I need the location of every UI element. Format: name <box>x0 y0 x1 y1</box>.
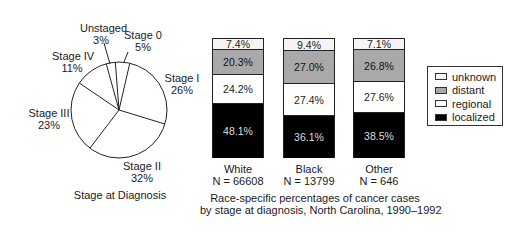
seg-localized: 36.1% <box>284 116 334 158</box>
seg-localized: 38.5% <box>354 113 404 158</box>
seg-distant: 26.8% <box>354 50 404 82</box>
legend-item-regional: regional <box>435 97 502 111</box>
seg-regional: 27.6% <box>354 82 404 113</box>
pie-label-stage4: Stage IV11% <box>52 50 92 74</box>
legend-swatch-regional <box>435 100 447 107</box>
seg-regional: 27.4% <box>284 84 334 116</box>
seg-distant: 27.0% <box>284 51 334 84</box>
legend-swatch-distant <box>435 87 447 94</box>
bar-white: 7.4% 20.3% 24.2% 48.1% <box>212 38 264 158</box>
legend: unknown distant regional localized <box>427 66 503 126</box>
seg-regional: 24.2% <box>213 75 263 104</box>
pie-label-stage1: Stage I26% <box>162 72 202 96</box>
pie-title: Stage at Diagnosis <box>60 189 180 201</box>
pie-label-unstaged: Unstaged3% <box>80 22 122 46</box>
legend-item-localized: localized <box>435 111 502 125</box>
pie-label-stage2: Stage II32% <box>122 160 162 184</box>
bar-other: 7.1% 26.8% 27.6% 38.5% <box>353 38 405 158</box>
pie-label-stage0: Stage 05% <box>122 29 164 53</box>
seg-unknown: 9.4% <box>284 39 334 51</box>
leader-stage0 <box>124 52 128 62</box>
bar-label-white: WhiteN = 66608 <box>203 163 273 187</box>
leader-unstaged <box>104 43 110 64</box>
legend-swatch-unknown <box>435 73 447 80</box>
legend-item-unknown: unknown <box>435 70 502 84</box>
seg-unknown: 7.4% <box>213 39 263 50</box>
legend-item-distant: distant <box>435 84 502 98</box>
bar-label-black: BlackN = 13799 <box>274 163 344 187</box>
bar-chart-caption: Race-specific percentages of cancer case… <box>200 192 430 216</box>
seg-localized: 48.1% <box>213 104 263 158</box>
bar-black: 9.4% 27.0% 27.4% 36.1% <box>283 38 335 158</box>
bar-label-other: OtherN = 646 <box>344 163 414 187</box>
seg-unknown: 7.1% <box>354 39 404 50</box>
legend-swatch-localized <box>435 114 447 121</box>
pie-label-stage3: Stage III23% <box>26 107 72 131</box>
seg-distant: 20.3% <box>213 50 263 75</box>
